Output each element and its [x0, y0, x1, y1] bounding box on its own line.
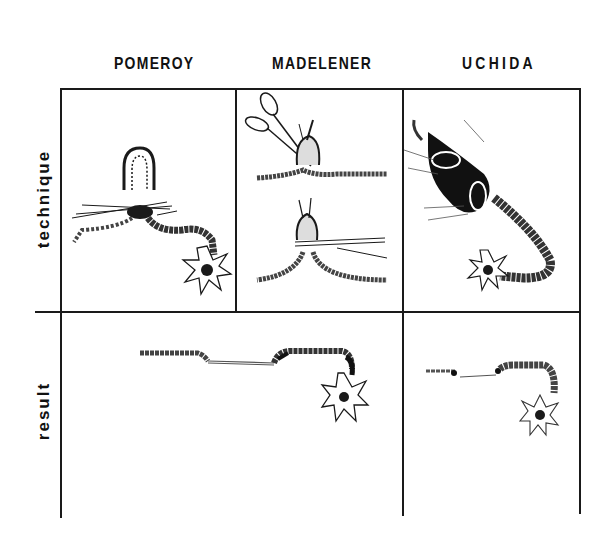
grid-right-border [579, 88, 581, 514]
uchida-technique-illustration [404, 90, 579, 311]
cell-technique-pomeroy [62, 90, 235, 311]
cell-technique-uchida [404, 90, 579, 311]
column-header-madelener: MADELENER [272, 53, 372, 75]
row-label-technique: technique [35, 149, 53, 249]
column-header-pomeroy: POMEROY [114, 53, 194, 75]
cell-result-pomeroy-madelener [62, 313, 402, 518]
pomeroy-technique-illustration [62, 90, 235, 311]
pomeroy-result-illustration [62, 313, 402, 518]
column-header-uchida: UCHIDA [462, 53, 536, 75]
madelener-technique-illustration [237, 90, 402, 311]
cell-result-uchida [404, 313, 579, 518]
uchida-result-illustration [404, 313, 579, 518]
cell-technique-madelener [237, 90, 402, 311]
row-label-result: result [35, 371, 53, 451]
